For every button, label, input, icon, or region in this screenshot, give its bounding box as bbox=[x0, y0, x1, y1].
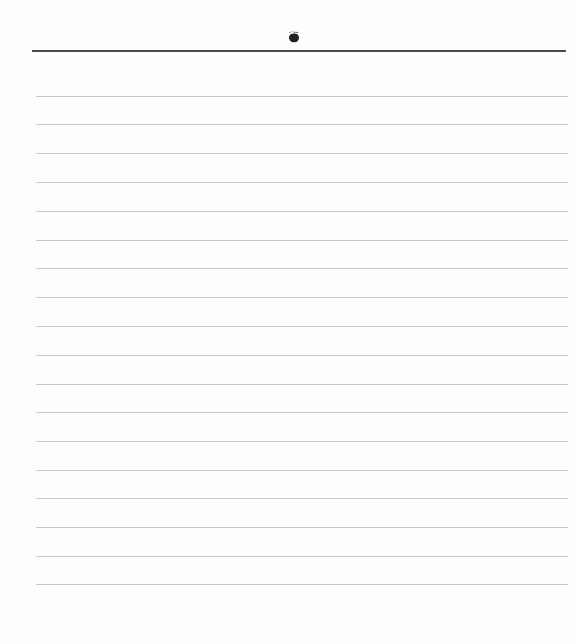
ruled-line bbox=[36, 384, 568, 385]
ruled-line bbox=[36, 124, 568, 125]
ruled-line bbox=[36, 412, 568, 413]
ruled-line bbox=[36, 470, 568, 471]
ruled-line bbox=[36, 527, 568, 528]
ruled-line bbox=[36, 326, 568, 327]
ruled-line bbox=[36, 498, 568, 499]
ruled-line bbox=[36, 153, 568, 154]
ruled-line bbox=[36, 556, 568, 557]
header-rule bbox=[32, 50, 566, 52]
ruled-line bbox=[36, 441, 568, 442]
ruled-line bbox=[36, 96, 568, 97]
notepaper-page bbox=[0, 0, 578, 644]
ruled-line bbox=[36, 211, 568, 212]
ruled-line bbox=[36, 268, 568, 269]
ruled-line bbox=[36, 240, 568, 241]
ruled-line bbox=[36, 584, 568, 585]
apple-fruit-icon bbox=[287, 30, 301, 44]
ruled-line bbox=[36, 355, 568, 356]
ruled-line bbox=[36, 297, 568, 298]
ruled-line bbox=[36, 182, 568, 183]
